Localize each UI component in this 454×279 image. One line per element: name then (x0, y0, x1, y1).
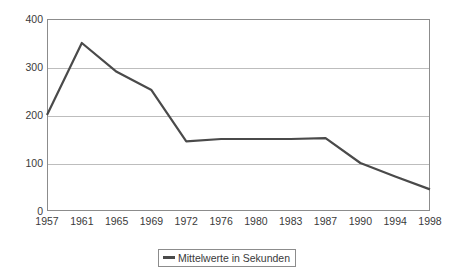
y-axis-tick-label: 300 (3, 62, 43, 72)
y-axis: 0100200300400 (0, 19, 43, 211)
y-axis-tick-label: 400 (3, 14, 43, 24)
legend-entry: Mittelwerte in Sekunden (158, 249, 296, 267)
y-axis-tick-label: 100 (3, 158, 43, 168)
line-chart: 0100200300400 19571961196519691972197619… (0, 0, 454, 279)
legend: Mittelwerte in Sekunden (0, 248, 454, 267)
data-line (47, 43, 430, 189)
data-series-layer (47, 19, 430, 211)
x-axis-tick-label: 1998 (410, 216, 450, 227)
line-swatch-icon (163, 256, 175, 259)
legend-label: Mittelwerte in Sekunden (178, 252, 290, 264)
x-axis: 1957196119651969197219761980198319871990… (47, 216, 430, 230)
y-axis-tick-label: 200 (3, 110, 43, 120)
